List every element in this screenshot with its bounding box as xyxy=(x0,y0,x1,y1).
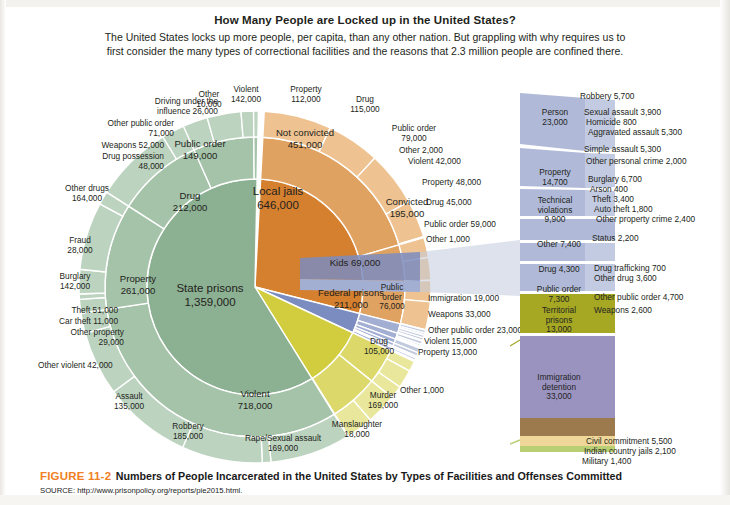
label-kids-simple-assault: Simple assault 5,300 xyxy=(584,145,661,155)
figure-number: FIGURE 11-2 xyxy=(40,470,111,482)
label-kids-other-public-order: Other public order 4,700 xyxy=(594,293,683,303)
label-state-weapons: Weapons 52,000 xyxy=(46,141,164,151)
label-state-burglary: Burglary142,000 xyxy=(38,272,112,291)
label-jails-nc-property: Property112,000 xyxy=(278,85,334,104)
figure-caption-row: FIGURE 11-2 Numbers of People Incarcerat… xyxy=(40,466,700,484)
label-state-other-public-order: Other public order71,000 xyxy=(56,119,174,138)
label-jails-nc-violent: Violent142,000 xyxy=(219,85,273,104)
label-state-car-theft: Car theft 11,000 xyxy=(28,317,118,327)
figure-caption: Numbers of People Incarcerated in the Un… xyxy=(116,470,622,482)
label-federal-drug: Drug105,000 xyxy=(355,337,403,356)
figure-source: SOURCE: http://www.prisonpolicy.org/repo… xyxy=(40,486,242,495)
label-kids-other-property: Other property crime 2,400 xyxy=(596,215,695,225)
label-kids-weapons: Weapons 2,600 xyxy=(594,306,652,316)
label-state-dui: Driving under theinfluence 26,000 xyxy=(100,97,218,116)
label-kids-property: Property14,700 xyxy=(528,168,582,187)
label-jails-c-drug: Drug 45,000 xyxy=(426,198,510,208)
label-local-jails: Local jails 646,000 xyxy=(218,185,338,212)
label-jails-c-public-order: Public order 59,000 xyxy=(424,220,524,230)
label-state-drug: Drug212,000 xyxy=(155,190,225,213)
label-state-other-property: Other property29,000 xyxy=(28,328,124,347)
label-state-other-violent: Other violent 42,000 xyxy=(38,361,178,371)
label-kids-other-drug: Other drug 3,600 xyxy=(594,274,657,284)
label-jails-c-violent: Violent 42,000 xyxy=(408,157,498,167)
label-state-robbery: Robbery185,000 xyxy=(151,422,225,441)
label-jails-nc-public-order: Public order79,000 xyxy=(378,124,450,143)
label-kids-aggravated-assault: Aggravated assault 5,300 xyxy=(588,128,682,138)
label-territorial-prisons: Territorialprisons13,000 xyxy=(524,306,594,335)
label-kids-person: Person23,000 xyxy=(528,108,582,127)
label-jails-nc-other: Other 2,000 xyxy=(399,146,479,156)
kids-leader xyxy=(420,240,520,296)
label-state-fraud: Fraud28,000 xyxy=(44,236,116,255)
label-jails-nc-drug: Drug115,000 xyxy=(340,95,390,114)
ring-detail-driving-under-the-influence xyxy=(241,111,254,137)
label-federal-public-order: Publicorder76,000 xyxy=(370,283,414,312)
label-kids-status: Status 2,200 xyxy=(592,234,639,244)
label-kids-public-order: Public order7,300 xyxy=(524,285,594,304)
label-kids-technical: Technicalviolations9,900 xyxy=(526,196,584,225)
label-immigration-detention: Immigrationdetention33,000 xyxy=(522,373,596,402)
label-state-violent: Violent718,000 xyxy=(215,388,295,411)
label-kids-drug: Drug 4,300 xyxy=(524,265,594,275)
label-state-theft: Theft 51,000 xyxy=(28,306,118,316)
label-kids-other: Other 7,400 xyxy=(524,240,594,250)
label-state-manslaughter: Manslaughter18,000 xyxy=(316,420,398,439)
label-kids-robbery: Robbery 5,700 xyxy=(580,92,634,102)
label-state-other-drugs: Other drugs164,000 xyxy=(44,184,130,203)
label-kids-other-personal: Other personal crime 2,000 xyxy=(586,157,687,167)
label-federal-other: Other 1,000 xyxy=(400,386,476,396)
label-state-drug-possession: Drug possession48,000 xyxy=(36,152,164,171)
label-kids: Kids 69,000 xyxy=(310,257,400,269)
label-state-public-order: Public order149,000 xyxy=(155,138,245,161)
label-jails-c-other: Other 1,000 xyxy=(426,235,510,245)
label-state-assault: Assault135,000 xyxy=(92,392,166,411)
label-jails-c-property: Property 48,000 xyxy=(422,178,512,188)
label-jails-not-convicted: Not convicted451,000 xyxy=(255,127,355,150)
